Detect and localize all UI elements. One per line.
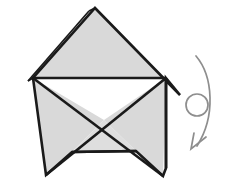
turn-over-arrowhead-icon [191, 133, 206, 149]
turn-over-arrow-group [186, 56, 210, 149]
turn-over-arrow-loop-icon [186, 94, 208, 116]
origami-diagram-canvas: Origami fold step — turn over A square s… [0, 0, 231, 196]
bottom-edge-line [72, 151, 136, 152]
origami-figure: Origami fold step — turn over A square s… [0, 0, 231, 196]
right-flap-face [104, 78, 166, 176]
